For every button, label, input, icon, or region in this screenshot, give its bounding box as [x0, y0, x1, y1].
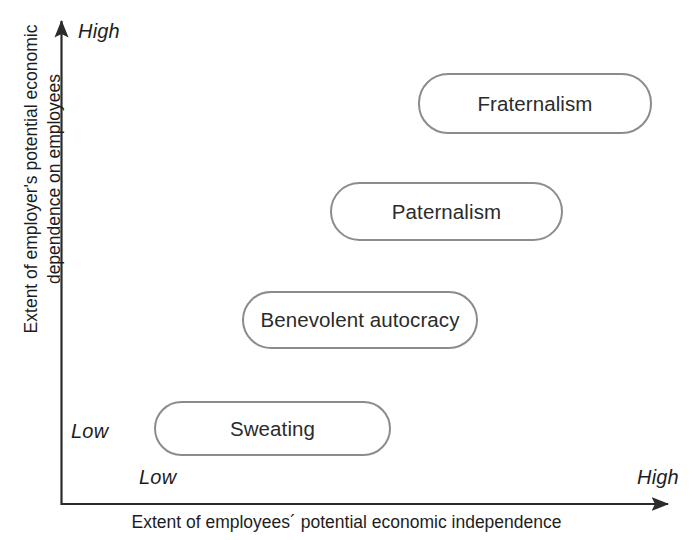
x-axis-low-label: Low — [139, 466, 176, 489]
y-axis-title: Extent of employer's potential economic … — [20, 0, 66, 379]
x-axis-high-label: High — [637, 466, 679, 489]
concept-box-label: Benevolent autocracy — [260, 308, 459, 332]
y-axis-low-label: Low — [71, 420, 108, 443]
concept-box-label: Fraternalism — [477, 92, 592, 116]
x-axis-title: Extent of employees´ potential economic … — [0, 512, 693, 533]
y-axis-title-line-2: dependence on employees — [43, 0, 66, 379]
concept-box-label: Sweating — [230, 417, 315, 441]
concept-box-label: Paternalism — [392, 200, 501, 224]
concept-box-sweating[interactable]: Sweating — [154, 401, 391, 456]
concept-box-benevolent-autocracy[interactable]: Benevolent autocracy — [242, 291, 478, 349]
concept-box-fraternalism[interactable]: Fraternalism — [418, 73, 652, 134]
y-axis-high-label: High — [78, 20, 120, 43]
diagram-canvas: High Low Low High Extent of employer's p… — [0, 0, 693, 540]
concept-box-paternalism[interactable]: Paternalism — [330, 182, 563, 241]
y-axis-title-line-1: Extent of employer's potential economic — [20, 0, 43, 379]
